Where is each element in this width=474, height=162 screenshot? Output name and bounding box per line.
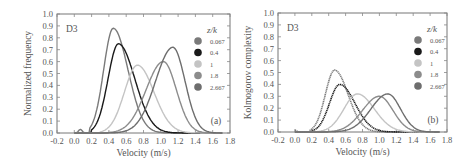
legend-label: 1 xyxy=(210,61,213,68)
y-tick-label: 1.0 xyxy=(263,8,274,18)
legend-label: 0.4 xyxy=(430,48,439,55)
y-tick-label: 0.6 xyxy=(42,57,53,67)
plot-frame xyxy=(57,14,230,133)
x-tick-label: 0.4 xyxy=(104,136,115,146)
legend-label: 2.667 xyxy=(210,84,225,91)
x-tick-label: 1.2 xyxy=(173,136,184,146)
y-tick-label: 0.4 xyxy=(263,79,274,89)
y-tick-label: 0.5 xyxy=(42,69,53,79)
legend-marker-icon xyxy=(414,71,422,79)
x-tick-label: 1.6 xyxy=(425,135,436,145)
legend-label: 0.4 xyxy=(210,49,219,56)
dataset-annotation: D3 xyxy=(287,23,299,33)
x-tick-label: 1.6 xyxy=(207,136,218,146)
x-axis-label: Velocity (m/s) xyxy=(335,147,389,158)
x-tick-label: 1.2 xyxy=(391,135,402,145)
x-tick-label: 0.4 xyxy=(323,135,334,145)
y-tick-label: 0.8 xyxy=(263,32,274,42)
x-tick-label: 0.0 xyxy=(69,136,80,146)
y-tick-label: 0.3 xyxy=(42,92,53,102)
y-tick-label: 0.0 xyxy=(42,128,53,138)
x-tick-label: 1.4 xyxy=(408,135,419,145)
panel-a-normalized-frequency: -0.20.00.20.40.60.81.01.21.41.61.80.00.1… xyxy=(23,9,235,159)
legend-marker-icon xyxy=(414,82,422,90)
x-tick-label: 0.6 xyxy=(340,135,351,145)
y-tick-label: 0.4 xyxy=(42,80,53,90)
x-tick-label: 0.2 xyxy=(86,136,97,146)
y-tick-label: 0.6 xyxy=(263,56,274,66)
legend-label: 2.667 xyxy=(430,83,445,90)
y-axis-label: Kolmogorov complexity xyxy=(243,25,253,119)
y-tick-label: 0.2 xyxy=(263,103,274,113)
panel-label: (b) xyxy=(427,115,438,126)
y-axis-label: Normalized frequency xyxy=(23,31,33,116)
legend-marker-icon xyxy=(194,37,202,45)
figure: -0.20.00.20.40.60.81.01.21.41.61.80.00.1… xyxy=(0,0,474,162)
y-tick-label: 0.9 xyxy=(263,20,274,30)
figure-svg: -0.20.00.20.40.60.81.01.21.41.61.80.00.1… xyxy=(0,0,474,162)
y-tick-label: 0.9 xyxy=(42,21,53,31)
x-tick-label: 1.0 xyxy=(155,136,166,146)
legend-marker-icon xyxy=(414,36,422,44)
legend-marker-icon xyxy=(414,59,422,67)
x-tick-label: 0.6 xyxy=(121,136,132,146)
legend-marker-icon xyxy=(414,48,422,56)
y-tick-label: 0.3 xyxy=(263,91,274,101)
legend-label: 0.067 xyxy=(210,38,225,45)
y-tick-label: 0.5 xyxy=(263,68,274,78)
x-tick-label: 0.8 xyxy=(138,136,149,146)
x-tick-label: 1.4 xyxy=(190,136,201,146)
y-tick-label: 0.1 xyxy=(42,116,53,126)
legend-title: z/k xyxy=(206,25,218,35)
x-tick-label: 1.8 xyxy=(442,135,453,145)
series-line-z0_4 xyxy=(295,84,440,132)
y-tick-label: 1.0 xyxy=(42,9,53,19)
y-tick-label: 0.7 xyxy=(263,44,274,54)
legend-label: 1 xyxy=(430,60,433,67)
x-tick-label: 1.8 xyxy=(225,136,236,146)
dataset-annotation: D3 xyxy=(66,24,78,34)
legend-marker-icon xyxy=(194,72,202,80)
plot-frame xyxy=(278,13,447,132)
legend-marker-icon xyxy=(194,49,202,57)
legend-marker-icon xyxy=(194,60,202,68)
legend-label: 1.8 xyxy=(430,71,438,78)
x-tick-label: 1.0 xyxy=(374,135,385,145)
y-tick-label: 0.1 xyxy=(263,115,274,125)
y-tick-label: 0.2 xyxy=(42,104,53,114)
y-tick-label: 0.7 xyxy=(42,45,53,55)
panel-b-kolmogorov-complexity: -0.20.00.20.40.60.81.01.21.41.61.80.00.1… xyxy=(243,8,452,158)
y-tick-label: 0.8 xyxy=(42,33,53,43)
legend-title: z/k xyxy=(426,24,438,34)
x-tick-label: 0.8 xyxy=(357,135,368,145)
legend-label: 1.8 xyxy=(210,72,218,79)
x-tick-label: 0.2 xyxy=(306,135,317,145)
x-axis-label: Velocity (m/s) xyxy=(116,148,170,159)
panel-label: (a) xyxy=(211,116,222,127)
x-tick-label: 0.0 xyxy=(290,135,301,145)
legend-marker-icon xyxy=(194,83,202,91)
legend-label: 0.067 xyxy=(430,37,445,44)
y-tick-label: 0.0 xyxy=(263,127,274,137)
